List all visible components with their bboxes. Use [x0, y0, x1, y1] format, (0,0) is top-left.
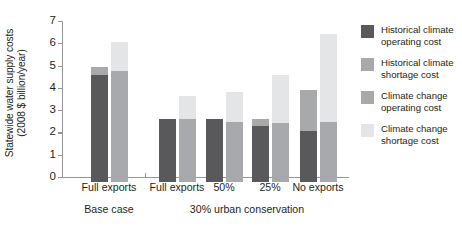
y-tick-1: [58, 155, 63, 156]
x-tick-label-3: 25%: [259, 181, 280, 193]
y-tick-label-1: 1: [50, 149, 56, 161]
chart-legend: Historical climateoperating costHistoric…: [361, 24, 462, 156]
y-tick-label-7: 7: [50, 15, 56, 27]
legend-label-3: Climate changeshortage cost: [381, 123, 462, 146]
bar-historical-2-operating-segment: [206, 119, 223, 183]
bar-historical-1-operating-segment: [159, 119, 176, 183]
legend-swatch-0: [361, 25, 374, 38]
bar-climate-change-2-operating-segment: [226, 122, 243, 182]
y-tick-0: [58, 177, 63, 178]
legend-item-2: Climate changeoperating cost: [361, 90, 462, 114]
x-tick-label-2: 50%: [213, 181, 234, 193]
x-tick-label-1: Full exports: [150, 181, 205, 193]
x-group-label-1: 30% urban conservation: [190, 203, 304, 215]
legend-item-3: Climate changeshortage cost: [361, 123, 462, 147]
bar-climate-change-3-operating-segment: [272, 123, 289, 182]
legend-label-1-line1: Historical climate: [381, 57, 462, 69]
plot-area: 01234567 Full exportsFull exports50%25%N…: [62, 18, 349, 182]
bar-climate-change-4-operating-segment: [320, 122, 337, 182]
bar-historical-3: [252, 119, 269, 183]
bar-historical-3-operating-segment: [252, 126, 269, 182]
bar-historical-0-shortage-segment: [91, 67, 108, 75]
y-tick-5: [58, 66, 63, 67]
legend-item-0: Historical climateoperating cost: [361, 24, 462, 48]
bar-historical-1: [159, 119, 176, 183]
legend-label-3-line2: shortage cost: [381, 135, 462, 147]
x-tick-label-0: Full exports: [82, 181, 137, 193]
legend-label-2: Climate changeoperating cost: [381, 90, 462, 113]
legend-label-3-line1: Climate change: [381, 123, 462, 135]
bar-climate-change-0-operating-segment: [111, 71, 128, 182]
legend-label-2-line2: operating cost: [381, 102, 462, 114]
x-tick-label-4: No exports: [292, 181, 343, 193]
y-tick-6: [58, 43, 63, 44]
bar-climate-change-1-operating-segment: [179, 119, 196, 183]
legend-label-0-line1: Historical climate: [381, 24, 462, 36]
legend-label-1: Historical climateshortage cost: [381, 57, 462, 80]
bar-historical-3-shortage-segment: [252, 119, 269, 127]
bar-historical-2: [206, 119, 223, 183]
legend-swatch-2: [361, 91, 374, 104]
bar-climate-change-2-shortage-segment: [226, 92, 243, 122]
bar-climate-change-4-shortage-segment: [320, 34, 337, 122]
bar-climate-change-3-shortage-segment: [272, 75, 289, 123]
x-group-label-0: Base case: [84, 203, 133, 215]
y-axis-title-line2: (2008 $ billion/year): [16, 8, 28, 178]
y-axis-title-line1: Statewide water supply costs: [4, 8, 16, 178]
bar-historical-0-operating-segment: [91, 75, 108, 182]
bar-historical-4-operating-segment: [300, 131, 317, 182]
y-tick-label-2: 2: [50, 127, 56, 139]
bar-climate-change-0: [111, 42, 128, 182]
x-axis-group-divider: [145, 173, 146, 178]
y-tick-label-4: 4: [50, 82, 56, 94]
y-tick-4: [58, 88, 63, 89]
bar-climate-change-3: [272, 75, 289, 182]
legend-label-0-line2: operating cost: [381, 36, 462, 48]
y-tick-label-3: 3: [50, 104, 56, 116]
bar-climate-change-4: [320, 34, 337, 182]
y-axis-title: Statewide water supply costs (2008 $ bil…: [4, 8, 38, 178]
bar-climate-change-1-shortage-segment: [179, 96, 196, 118]
legend-label-0: Historical climateoperating cost: [381, 24, 462, 47]
y-tick-3: [58, 110, 63, 111]
y-tick-label-6: 6: [50, 38, 56, 50]
bar-climate-change-0-shortage-segment: [111, 42, 128, 71]
y-tick-7: [58, 21, 63, 22]
bar-historical-4-shortage-segment: [300, 90, 317, 131]
bar-climate-change-1: [179, 96, 196, 182]
legend-label-1-line2: shortage cost: [381, 69, 462, 81]
y-tick-label-5: 5: [50, 60, 56, 72]
chart-figure: Statewide water supply costs (2008 $ bil…: [0, 0, 462, 226]
y-tick-2: [58, 132, 63, 133]
bar-historical-4: [300, 90, 317, 182]
legend-item-1: Historical climateshortage cost: [361, 57, 462, 81]
legend-swatch-1: [361, 58, 374, 71]
legend-label-2-line1: Climate change: [381, 90, 462, 102]
bar-climate-change-2: [226, 92, 243, 182]
bar-historical-0: [91, 67, 108, 182]
y-tick-label-0: 0: [50, 171, 56, 183]
legend-swatch-3: [361, 124, 374, 137]
